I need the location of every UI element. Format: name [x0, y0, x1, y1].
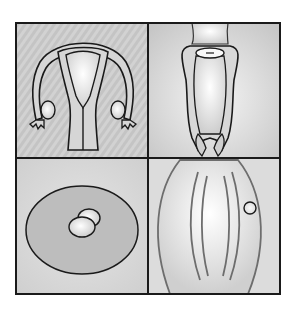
- ovary-left: [41, 101, 55, 119]
- vaginal-lumen: [194, 56, 226, 134]
- panel-vaginal-canal: [148, 23, 280, 158]
- anatomy-diagram: [0, 0, 294, 316]
- organ-outline: [158, 160, 261, 294]
- panel-ovum: [16, 158, 148, 294]
- cervix-top: [192, 23, 228, 44]
- panel-uterus: [16, 23, 148, 158]
- ovum: [69, 217, 95, 237]
- small-circle: [244, 202, 256, 214]
- panel-elongated-organ: [148, 158, 280, 294]
- ovary-right: [111, 101, 125, 119]
